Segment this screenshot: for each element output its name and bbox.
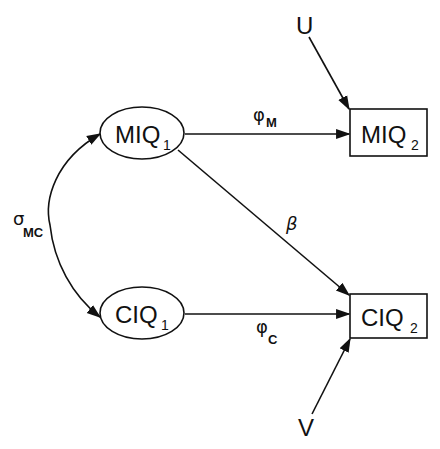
svg-text:1: 1	[161, 317, 169, 333]
svg-text:M: M	[266, 115, 277, 130]
sigma-mc-label: σ MC	[13, 208, 44, 240]
svg-text:φ: φ	[256, 316, 268, 337]
svg-text:MC: MC	[23, 225, 44, 240]
beta-label: β	[285, 213, 298, 234]
phi-m-label: φ M	[253, 104, 277, 130]
svg-text:C: C	[268, 332, 278, 347]
node-miq1: MIQ 1	[100, 107, 184, 159]
v-edge	[312, 339, 350, 414]
node-miq2: MIQ 2	[350, 109, 427, 156]
svg-text:φ: φ	[253, 104, 265, 125]
svg-text:CIQ: CIQ	[115, 301, 158, 328]
node-ciq1: CIQ 1	[100, 287, 184, 339]
v-label: V	[298, 414, 314, 441]
svg-text:1: 1	[163, 137, 171, 153]
svg-text:2: 2	[411, 137, 419, 153]
u-label: U	[296, 12, 313, 39]
svg-text:MIQ: MIQ	[361, 121, 406, 148]
sigma-mc-curve	[48, 134, 100, 317]
phi-c-label: φ C	[256, 316, 278, 347]
svg-text:2: 2	[410, 320, 418, 336]
svg-text:CIQ: CIQ	[361, 304, 404, 331]
node-ciq2: CIQ 2	[350, 294, 427, 338]
svg-text:MIQ: MIQ	[115, 121, 160, 148]
beta-edge	[178, 150, 349, 295]
u-edge	[309, 37, 349, 109]
path-diagram: σ MC φ M β φ C U V MIQ 1 CIQ 1 MIQ 2 CI	[0, 0, 440, 449]
